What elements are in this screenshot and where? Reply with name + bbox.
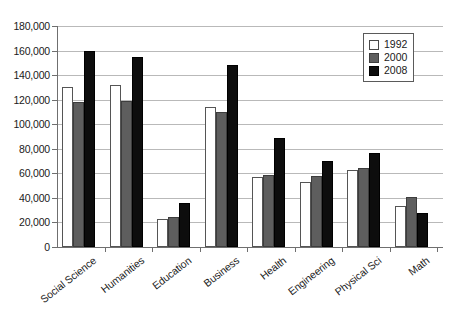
bar: [406, 197, 417, 247]
y-axis-line: [57, 26, 58, 248]
bar: [369, 153, 380, 247]
bar-group: [62, 26, 95, 247]
bar: [274, 138, 285, 247]
gray-square-icon: [369, 53, 379, 63]
bar: [417, 213, 428, 247]
bar: [358, 168, 369, 247]
x-axis-tick-mark: [200, 247, 201, 252]
x-axis-category-label: Engineering: [285, 254, 336, 297]
bar: [395, 206, 406, 247]
y-axis-tick-label: 120,000: [13, 94, 50, 106]
x-axis-category-label: Business: [201, 254, 241, 289]
black-square-icon: [369, 66, 379, 76]
x-axis-tick-mark: [295, 247, 296, 252]
bar: [73, 102, 84, 247]
y-axis-tick-mark: [52, 26, 57, 27]
y-axis-tick-label: 140,000: [13, 69, 50, 81]
x-axis-category-label: Physical Sci: [333, 254, 384, 298]
y-axis-tick-mark: [52, 222, 57, 223]
y-axis-tick-mark: [52, 149, 57, 150]
bar: [300, 182, 311, 247]
y-axis-tick-mark: [52, 173, 57, 174]
x-axis-category-label: Health: [258, 254, 289, 282]
x-axis-tick-mark: [342, 247, 343, 252]
y-axis-tick-label: 80,000: [19, 143, 50, 155]
bar: [121, 101, 132, 247]
x-axis-category-label: Education: [150, 254, 193, 292]
bar: [157, 219, 168, 247]
bar: [252, 177, 263, 247]
bar-group: [157, 26, 190, 247]
bar-chart: 180,000160,000140,000120,000100,00080,00…: [0, 0, 459, 321]
x-axis-tick-mark: [437, 247, 438, 252]
legend-item: 2000: [369, 51, 407, 64]
bar: [347, 170, 358, 247]
y-axis-tick-labels: 180,000160,000140,000120,000100,00080,00…: [0, 0, 50, 321]
y-axis-tick-label: 180,000: [13, 20, 50, 32]
y-axis-tick-label: 160,000: [13, 45, 50, 57]
x-axis-line: [57, 247, 443, 248]
y-axis-tick-label: 40,000: [19, 192, 50, 204]
legend-item: 1992: [369, 38, 407, 51]
x-axis-tick-mark: [247, 247, 248, 252]
bar-group: [252, 26, 285, 247]
x-axis-tick-mark: [390, 247, 391, 252]
bar-group: [110, 26, 143, 247]
bar-group: [205, 26, 238, 247]
bar: [62, 87, 73, 247]
bar: [132, 57, 143, 247]
bar: [227, 65, 238, 247]
y-axis-tick-label: 60,000: [19, 167, 50, 179]
white-square-icon: [369, 40, 379, 50]
bar: [311, 176, 322, 247]
y-axis-tick-mark: [52, 100, 57, 101]
bar-group: [300, 26, 333, 247]
legend-item-label: 2000: [384, 52, 407, 63]
x-axis-tick-mark: [105, 247, 106, 252]
y-axis-tick-label: 100,000: [13, 118, 50, 130]
y-axis-tick-mark: [52, 75, 57, 76]
x-axis-category-label: Math: [406, 254, 431, 278]
bar: [205, 107, 216, 247]
x-axis-tick-mark: [152, 247, 153, 252]
legend-item-label: 1992: [384, 39, 407, 50]
legend-item-label: 2008: [384, 65, 407, 76]
y-axis-tick-label: 0: [44, 241, 50, 253]
y-axis-tick-label: 20,000: [19, 216, 50, 228]
chart-legend: 199220002008: [363, 33, 414, 82]
y-axis-tick-mark: [52, 124, 57, 125]
y-axis-tick-mark: [52, 247, 57, 248]
bar: [263, 175, 274, 247]
bar: [168, 217, 179, 247]
x-axis-category-label: Humanities: [98, 254, 146, 295]
y-axis-tick-mark: [52, 198, 57, 199]
bar: [179, 203, 190, 247]
bar: [322, 161, 333, 247]
y-axis-tick-mark: [52, 51, 57, 52]
legend-item: 2008: [369, 64, 407, 77]
bar: [216, 112, 227, 247]
bar: [84, 51, 95, 247]
bar: [110, 85, 121, 247]
